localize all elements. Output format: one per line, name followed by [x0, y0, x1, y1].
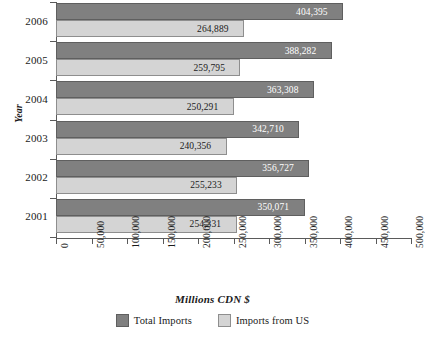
legend-label: Imports from US — [236, 315, 309, 326]
y-axis-tick-label-2004: 2004 — [4, 93, 48, 105]
legend-swatch-icon — [116, 314, 129, 327]
bar-value-label: 350,071 — [258, 203, 290, 213]
x-axis-title: Millions CDN $ — [0, 293, 425, 305]
bar-value-label: 363,308 — [267, 86, 299, 96]
bar-value-label: 250,291 — [187, 103, 219, 113]
x-axis-tick-label: 250,000 — [238, 216, 248, 248]
x-axis-tick — [56, 238, 57, 244]
bar-value-label: 259,795 — [193, 64, 225, 74]
x-axis-tick — [269, 238, 270, 244]
x-axis-tick-label: 50,000 — [96, 221, 106, 248]
x-axis-tick-label: 400,000 — [344, 216, 354, 248]
y-axis-tick-label-2001: 2001 — [4, 210, 48, 222]
y-axis-tick-label-2006: 2006 — [4, 15, 48, 27]
plot-area: 404,395264,889388,282259,795363,308250,2… — [56, 2, 411, 237]
x-axis-tick — [127, 238, 128, 244]
chart-legend: Total ImportsImports from US — [0, 314, 425, 327]
bar-value-label: 356,727 — [262, 164, 294, 174]
x-axis-tick — [376, 238, 377, 244]
x-axis-tick — [163, 238, 164, 244]
x-axis-tick — [92, 238, 93, 244]
x-axis-tick — [340, 238, 341, 244]
x-axis-tick — [234, 238, 235, 244]
x-axis-tick-label: 300,000 — [273, 216, 283, 248]
y-axis-tick-labels: 200620052004200320022001 — [0, 0, 48, 240]
y-axis-tick-label-2002: 2002 — [4, 171, 48, 183]
x-axis-tick-label: 450,000 — [380, 216, 390, 248]
bar-value-label: 388,282 — [285, 47, 317, 57]
y-axis-tick-label-2003: 2003 — [4, 132, 48, 144]
x-axis-tick-label: 350,000 — [309, 216, 319, 248]
x-axis-tick — [411, 238, 412, 244]
x-axis-tick-label: 100,000 — [131, 216, 141, 248]
legend-item-total-imports[interactable]: Total Imports — [116, 314, 192, 327]
x-axis-tick-label: 0 — [60, 243, 70, 248]
bar-value-label: 264,889 — [197, 25, 229, 35]
bar-value-label: 342,710 — [252, 125, 284, 135]
x-axis-tick — [198, 238, 199, 244]
bar-value-label: 404,395 — [296, 8, 328, 18]
legend-item-imports-from-us[interactable]: Imports from US — [218, 314, 309, 327]
x-axis-tick-label: 500,000 — [415, 216, 425, 248]
legend-swatch-icon — [218, 314, 231, 327]
bar-value-label: 240,356 — [180, 142, 212, 152]
bar-chart: Year 200620052004200320022001 404,395264… — [0, 0, 425, 342]
bar-value-label: 255,233 — [190, 181, 222, 191]
x-axis-tick-label: 150,000 — [167, 216, 177, 248]
x-axis-tick — [305, 238, 306, 244]
legend-label: Total Imports — [134, 315, 192, 326]
y-axis-tick-label-2005: 2005 — [4, 54, 48, 66]
x-axis-tick-label: 200,000 — [202, 216, 212, 248]
